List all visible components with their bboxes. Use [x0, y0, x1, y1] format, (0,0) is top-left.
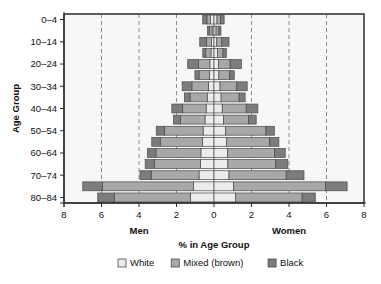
women-mixed-segment: [222, 104, 246, 113]
women-white-segment: [214, 193, 236, 202]
pyramid-row: [174, 115, 257, 124]
women-black-segment: [230, 60, 241, 69]
women-white-segment: [214, 15, 217, 24]
men-black-segment: [152, 137, 160, 146]
x-tick-label: 4: [136, 209, 141, 220]
x-tick-label: 2: [174, 209, 179, 220]
pyramid-row: [147, 149, 285, 158]
men-white-segment: [210, 60, 214, 69]
men-white-segment: [193, 182, 214, 191]
women-mixed-segment: [217, 15, 220, 24]
men-white-segment: [203, 126, 214, 135]
women-white-segment: [214, 71, 219, 80]
pyramid-row: [200, 37, 229, 46]
women-black-segment: [246, 104, 258, 113]
women-white-segment: [214, 82, 220, 91]
x-tick-label: 6: [99, 209, 104, 220]
women-black-segment: [223, 48, 226, 57]
women-mixed-segment: [228, 160, 276, 169]
men-black-segment: [188, 60, 199, 69]
women-black-segment: [276, 160, 288, 169]
women-white-segment: [214, 182, 234, 191]
women-white-segment: [214, 115, 223, 124]
women-black-segment: [239, 93, 245, 102]
women-black-segment: [220, 15, 224, 24]
pyramid-row: [188, 60, 242, 69]
women-mixed-segment: [226, 126, 266, 135]
legend-label-mixed-brown: Mixed (brown): [183, 257, 243, 268]
chart-svg: 864202468MenWomen% in Age Group80–8470–7…: [0, 0, 381, 284]
men-mixed-segment: [206, 48, 211, 57]
women-mixed-segment: [228, 149, 275, 158]
men-black-segment: [172, 104, 183, 113]
y-tick-label: 10–14: [31, 36, 57, 47]
men-black-segment: [200, 37, 207, 46]
population-pyramid-chart: 864202468MenWomen% in Age Group80–8470–7…: [0, 0, 381, 284]
men-mixed-segment: [210, 26, 213, 35]
women-white-segment: [214, 149, 228, 158]
men-white-segment: [211, 37, 214, 46]
x-tick-label: 6: [324, 209, 329, 220]
women-mixed-segment: [229, 171, 286, 180]
women-black-segment: [249, 115, 257, 124]
x-tick-label: 2: [249, 209, 254, 220]
men-black-segment: [203, 15, 207, 24]
pyramid-row: [203, 48, 227, 57]
pyramid-row: [184, 93, 245, 102]
y-tick-label: 60–64: [31, 147, 57, 158]
men-black-segment: [208, 26, 210, 35]
legend-label-white: White: [130, 257, 154, 268]
women-white-segment: [214, 104, 222, 113]
men-black-segment: [83, 182, 103, 191]
y-tick-label: 70–74: [31, 170, 57, 181]
women-black-segment: [326, 182, 348, 191]
women-black-segment: [302, 193, 315, 202]
y-tick-label: 20–24: [31, 58, 57, 69]
x-tick-label: 4: [286, 209, 291, 220]
women-mixed-segment: [234, 182, 326, 191]
men-black-segment: [140, 171, 151, 180]
legend-label-black: Black: [280, 257, 303, 268]
men-white-segment: [207, 93, 214, 102]
women-white-segment: [214, 137, 226, 146]
men-mixed-segment: [165, 126, 203, 135]
x-tick-label: 0: [211, 209, 216, 220]
y-tick-label: 0–4: [41, 14, 57, 25]
men-mixed-segment: [183, 104, 206, 113]
women-mixed-segment: [217, 37, 222, 46]
men-mixed-segment: [181, 115, 205, 124]
men-mixed-segment: [199, 60, 210, 69]
y-tick-label: 40–44: [31, 103, 57, 114]
men-mixed-segment: [156, 149, 201, 158]
women-mixed-segment: [219, 60, 231, 69]
pyramid-row: [203, 15, 224, 24]
y-axis-title: Age Group: [10, 84, 21, 133]
legend-swatch-mixed-brown: [171, 259, 179, 267]
men-white-segment: [205, 115, 214, 124]
women-white-segment: [214, 93, 221, 102]
men-mixed-segment: [199, 71, 209, 80]
men-label: Men: [130, 225, 149, 236]
pyramid-row: [83, 182, 347, 191]
men-mixed-segment: [207, 37, 212, 46]
men-mixed-segment: [207, 15, 211, 24]
men-white-segment: [199, 171, 214, 180]
women-mixed-segment: [217, 48, 223, 57]
pyramid-row: [195, 71, 234, 80]
women-black-segment: [222, 37, 229, 46]
men-black-segment: [182, 82, 192, 91]
women-white-segment: [214, 171, 229, 180]
pyramid-row: [172, 104, 258, 113]
pyramid-row: [152, 137, 279, 146]
men-black-segment: [174, 115, 181, 124]
women-mixed-segment: [216, 26, 219, 35]
x-tick-label: 8: [361, 209, 366, 220]
women-mixed-segment: [226, 137, 269, 146]
women-label: Women: [272, 225, 306, 236]
women-black-segment: [237, 82, 247, 91]
men-mixed-segment: [192, 82, 209, 91]
men-mixed-segment: [115, 193, 191, 202]
women-black-segment: [286, 171, 304, 180]
women-white-segment: [214, 60, 219, 69]
men-white-segment: [202, 137, 214, 146]
